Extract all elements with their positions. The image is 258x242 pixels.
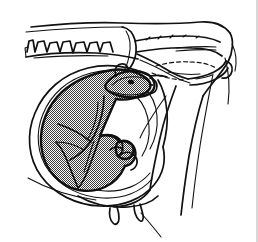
fetus-nostril-icon bbox=[151, 84, 154, 86]
vertebral-column bbox=[25, 27, 138, 59]
figure-root bbox=[0, 0, 258, 242]
anatomical-line-drawing bbox=[0, 0, 258, 242]
sacrum-tailhead bbox=[121, 27, 222, 74]
fetus-eye bbox=[128, 80, 134, 85]
fetus-body bbox=[41, 69, 151, 190]
scan-edge-artifact bbox=[256, 0, 258, 242]
udder-teats bbox=[78, 196, 161, 237]
